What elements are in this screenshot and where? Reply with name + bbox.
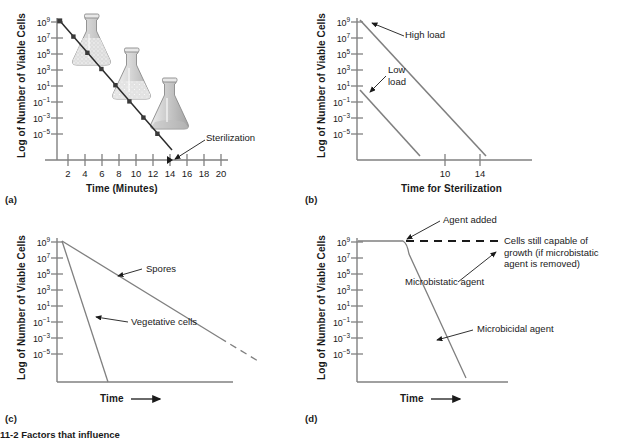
panel-a-ytick-2: 105 [19,48,50,60]
panel-d-ytick-7: 10−5 [315,348,350,360]
panel-b-xtick-0: 10 [435,168,455,179]
panel-b-ytick-0: 109 [319,16,350,28]
panel-b-ytick-7: 10−5 [315,128,350,140]
panel-d-annotation-cells-still-capable: Cells still capable of growth (if microb… [504,235,632,270]
panel-a-xtick-9: 20 [211,168,231,179]
cells-capable-line1: Cells still capable of [504,235,588,246]
panel-b-annotation-high-load: High load [405,29,445,41]
panel-d-ytick-3: 103 [319,284,350,296]
panel-c-annotation-spores: Spores [146,263,176,275]
panel-c-x-axis-label: Time [100,393,124,404]
panel-c-ytick-0: 109 [19,236,50,248]
panel-c-tag: (c) [5,413,17,424]
panel-b-ytick-2: 105 [319,48,350,60]
panel-b-annotation-low-load: Low load [388,64,406,87]
partially-clear-flask-icon [113,48,151,99]
panel-d: Log of Number of Viable Cells 109 107 10… [300,210,633,422]
panel-b: Log of Number of Viable Cells 109 107 10… [300,0,633,210]
figure-microbial-death-curves: Log of Number of Viable Cells 109 107 10… [0,0,633,438]
panel-a-ytick-0: 109 [19,16,50,28]
panel-b-ytick-6: 10−3 [315,112,350,124]
panel-b-ytick-3: 103 [319,64,350,76]
panel-d-x-axis-label: Time [400,393,424,404]
panel-b-ytick-5: 10−1 [315,96,350,108]
panel-d-annotation-agent-added: Agent added [443,214,497,226]
panel-a-ytick-7: 10−5 [15,128,50,140]
panel-d-ytick-4: 101 [319,300,350,312]
panel-a-ytick-3: 103 [19,64,50,76]
panel-b-ytick-4: 101 [319,80,350,92]
panel-d-annotation-microbistatic-agent: Microbistatic agent [405,276,484,288]
panel-c-ytick-3: 103 [19,284,50,296]
cells-capable-line2: growth (if microbistatic [504,247,599,258]
panel-b-tag: (b) [305,194,318,205]
panel-c-ytick-1: 107 [19,252,50,264]
panel-a-ytick-5: 10−1 [15,96,50,108]
panel-d-ytick-6: 10−3 [315,332,350,344]
panel-c-ytick-5: 10−1 [15,316,50,328]
panel-b-x-axis-label: Time for Sterilization [401,183,502,194]
curve-vegetative-cells [62,241,108,382]
panel-d-ytick-5: 10−1 [315,316,350,328]
clear-flask-icon [151,78,189,129]
curve-spores-extrapolated [220,338,258,361]
cells-capable-line3: agent is removed) [504,258,580,269]
panel-c-ytick-6: 10−3 [15,332,50,344]
panel-c: Log of Number of Viable Cells 109 107 10… [0,210,300,422]
panel-a-ytick-4: 101 [19,80,50,92]
panel-b-low-load-line2: load [388,76,406,87]
panel-a-ytick-6: 10−3 [15,112,50,124]
panel-a-ytick-1: 107 [19,32,50,44]
panel-c-ytick-7: 10−5 [15,348,50,360]
curve-low-load [360,90,420,156]
panel-a: Log of Number of Viable Cells 109 107 10… [0,0,300,210]
curve-microbicidal-agent [358,241,466,378]
panel-b-low-load-line1: Low [388,64,405,75]
panel-d-ytick-2: 105 [319,268,350,280]
figure-caption: 11-2 Factors that influence [0,429,120,438]
panel-a-annotation-sterilization: Sterilization [206,132,255,144]
panel-b-ytick-1: 107 [319,32,350,44]
panel-d-ytick-1: 107 [319,252,350,264]
panel-b-xtick-1: 14 [470,168,490,179]
panel-d-tag: (d) [305,413,318,424]
panel-a-x-axis-label: Time (Minutes) [86,183,158,194]
panel-c-annotation-vegetative-cells: Vegetative cells [131,316,197,328]
panel-d-ytick-0: 109 [319,236,350,248]
panel-c-ytick-2: 105 [19,268,50,280]
panel-c-ytick-4: 101 [19,300,50,312]
panel-a-tag: (a) [5,194,17,205]
panel-d-annotation-microbicidal-agent: Microbicidal agent [477,323,554,335]
